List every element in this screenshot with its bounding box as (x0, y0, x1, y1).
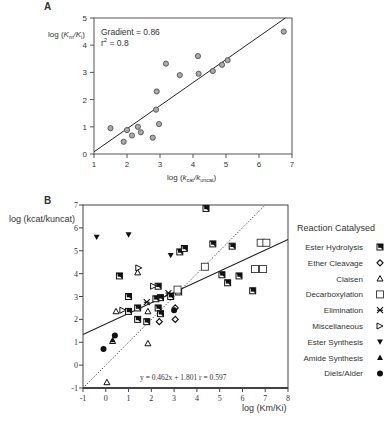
x-tick-label: 1 (92, 160, 97, 169)
legend-marker-icon (377, 355, 383, 360)
y-tick-label: 3 (83, 68, 88, 77)
data-point (281, 29, 286, 34)
legend-marker-icon (377, 291, 384, 298)
x-tick-label: 8 (286, 394, 290, 403)
data-point (124, 127, 129, 132)
data-point (263, 239, 270, 246)
data-point (250, 288, 256, 294)
data-point (201, 263, 208, 270)
legend-marker-icon (377, 339, 383, 344)
panel-a-x-label: log (kcat/kuncat) (167, 173, 217, 183)
panel-a-y-label: log (Km/Ki) (48, 30, 85, 40)
data-point (136, 265, 142, 271)
x-tick-label: 7 (290, 160, 295, 169)
data-point (163, 61, 168, 66)
data-point (145, 308, 151, 313)
data-point (121, 139, 126, 144)
data-point (113, 308, 119, 313)
data-point (145, 340, 151, 345)
data-point (210, 241, 216, 247)
data-point (126, 232, 132, 237)
panel-b: B log (kcat/kuncat) -1012345678-10123456… (9, 195, 384, 413)
figure: A 1234567012345 Gradient = 0.86 r2 = 0.8… (0, 0, 389, 422)
x-tick-label: 5 (218, 394, 222, 403)
data-point (156, 121, 161, 126)
legend-marker-icon (377, 244, 383, 250)
y-tick-label: 5 (83, 14, 88, 23)
legend-label: Amide Synthesis (303, 354, 363, 363)
data-point (225, 58, 230, 63)
data-point (153, 107, 158, 112)
y-tick-label: 2 (74, 315, 78, 324)
panel-a-gradient: Gradient = 0.86 (101, 27, 160, 37)
x-tick-label: 7 (263, 394, 267, 403)
data-point (171, 307, 177, 313)
data-point (150, 135, 155, 140)
y-tick-label: 2 (83, 96, 88, 105)
x-tick-label: 6 (240, 394, 244, 403)
data-point (138, 130, 143, 135)
y-tick-label: 4 (83, 41, 88, 50)
legend: Ester HydrolysisEther CleavageClaisenDec… (303, 243, 383, 378)
data-point (259, 266, 266, 273)
data-point (168, 294, 174, 300)
data-point (225, 280, 231, 286)
data-point (129, 133, 134, 138)
data-point (177, 73, 182, 78)
data-point (172, 316, 178, 322)
legend-label: Elimination (324, 306, 363, 315)
legend-label: Claisen (336, 275, 363, 284)
x-tick-label: 4 (191, 160, 196, 169)
data-point (219, 272, 225, 278)
data-point (168, 253, 174, 258)
y-tick-label: 3 (74, 293, 78, 302)
legend-title: Reaction Catalysed (297, 223, 375, 233)
data-point (135, 316, 141, 322)
panel-b-label: B (44, 195, 51, 206)
y-tick-label: 4 (74, 270, 78, 279)
data-point (229, 243, 235, 249)
panel-a-r2: r2 = 0.8 (101, 37, 129, 48)
x-tick-label: 2 (149, 394, 153, 403)
data-point (94, 235, 100, 240)
data-point (219, 62, 224, 67)
data-point (157, 311, 163, 317)
legend-marker-icon (377, 276, 383, 281)
data-point (101, 346, 107, 352)
legend-marker-icon (377, 307, 383, 313)
y-tick-label: 6 (74, 224, 78, 233)
data-point (120, 307, 126, 313)
panel-b-points (94, 205, 270, 384)
data-point (108, 126, 113, 131)
panel-b-equation: y = 0.462x + 1.801 r = 0.597 (140, 373, 227, 382)
data-point (210, 68, 215, 73)
panel-a-label: A (44, 1, 51, 12)
x-tick-label: 5 (224, 160, 229, 169)
legend-label: Ether Cleavage (308, 259, 364, 268)
data-point (116, 273, 122, 279)
legend-marker-icon (377, 323, 383, 329)
data-point (155, 305, 161, 311)
data-point (135, 124, 140, 129)
legend-label: Decarboxylation (306, 290, 363, 299)
panel-b-frame (83, 205, 288, 388)
data-point (181, 245, 187, 251)
x-tick-label: -1 (80, 394, 87, 403)
y-tick-label: 5 (74, 247, 78, 256)
legend-marker-icon (377, 260, 383, 266)
panel-b-fit-line (83, 239, 288, 334)
x-tick-label: 2 (125, 160, 130, 169)
panel-a: A 1234567012345 Gradient = 0.86 r2 = 0.8… (44, 1, 295, 183)
legend-label: Ester Hydrolysis (305, 243, 363, 252)
legend-label: Ester Synthesis (307, 338, 363, 347)
data-point (144, 319, 150, 325)
panel-b-x-label: log (Km/Ki) (242, 403, 287, 413)
y-tick-label: 7 (74, 201, 78, 210)
x-tick-label: 6 (257, 160, 262, 169)
legend-marker-icon (377, 370, 383, 376)
panel-a-points (108, 29, 286, 144)
y-tick-label: 0 (74, 361, 78, 370)
data-point (154, 89, 159, 94)
y-tick-label: 0 (83, 150, 88, 159)
data-point (236, 273, 242, 279)
